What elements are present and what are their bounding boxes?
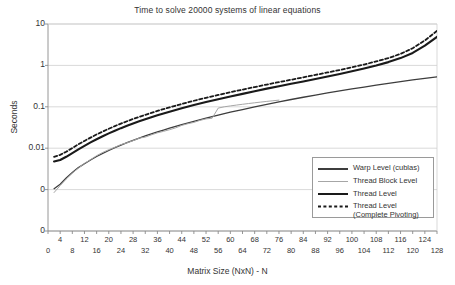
x-tick-label: 60 [218,235,242,244]
x-tick-label: 72 [255,246,279,255]
legend-item-thread-level-pivoting: Thread Level (Complete Pivoting) [318,200,432,220]
legend-swatch-thread-block-level [318,181,348,182]
x-tick-label: 4 [48,235,72,244]
x-tick-label: 24 [109,246,133,255]
x-tick-label: 120 [401,246,425,255]
legend-swatch-thread-level-pivoting [318,205,348,208]
x-tick-label: 32 [133,246,157,255]
x-tick-label: 36 [145,235,169,244]
legend-label-thread-block-level: Thread Block Level [353,175,417,186]
legend-label-thread-level: Thread Level [353,188,397,199]
x-tick-label: 44 [170,235,194,244]
x-tick-label: 40 [158,246,182,255]
legend-item-thread-block-level: Thread Block Level [318,175,432,187]
series-line-1 [54,100,279,192]
x-tick-label: 84 [291,235,315,244]
x-tick-label: 96 [328,246,352,255]
x-tick-label: 100 [340,235,364,244]
x-tick-label: 48 [182,246,206,255]
x-tick-label: 104 [352,246,376,255]
x-tick-label: 56 [206,246,230,255]
x-tick-label: 124 [413,235,437,244]
x-tick-label: 12 [72,235,96,244]
x-tick-label: 52 [194,235,218,244]
legend-label-thread-level-pivoting-line2: (Complete Pivoting) [353,209,419,220]
legend-item-warp-level: Warp Level (cublas) [318,162,432,174]
chart-container: Time to solve 20000 systems of linear eq… [0,0,455,285]
legend-item-thread-level: Thread Level [318,188,432,200]
x-axis-label: Matrix Size (NxN) - N [0,266,455,276]
x-tick-label: 112 [376,246,400,255]
x-tick-label: 28 [121,235,145,244]
x-tick-label: 116 [389,235,413,244]
legend-swatch-thread-level [318,193,348,195]
legend-label-warp-level: Warp Level (cublas) [353,162,419,173]
x-tick-label: 76 [267,235,291,244]
x-tick-label: 68 [243,235,267,244]
x-tick-label: 20 [97,235,121,244]
x-tick-label: 128 [425,246,449,255]
x-tick-label: 16 [85,246,109,255]
x-tick-label: 0 [36,246,60,255]
x-tick-label: 108 [364,235,388,244]
legend: Warp Level (cublas) Thread Block Level T… [312,157,434,218]
x-tick-label: 64 [231,246,255,255]
x-tick-label: 80 [279,246,303,255]
x-tick-label: 88 [303,246,327,255]
series-line-2 [54,37,437,162]
x-tick-label: 92 [316,235,340,244]
legend-swatch-warp-level [318,168,348,170]
x-tick-label: 8 [60,246,84,255]
